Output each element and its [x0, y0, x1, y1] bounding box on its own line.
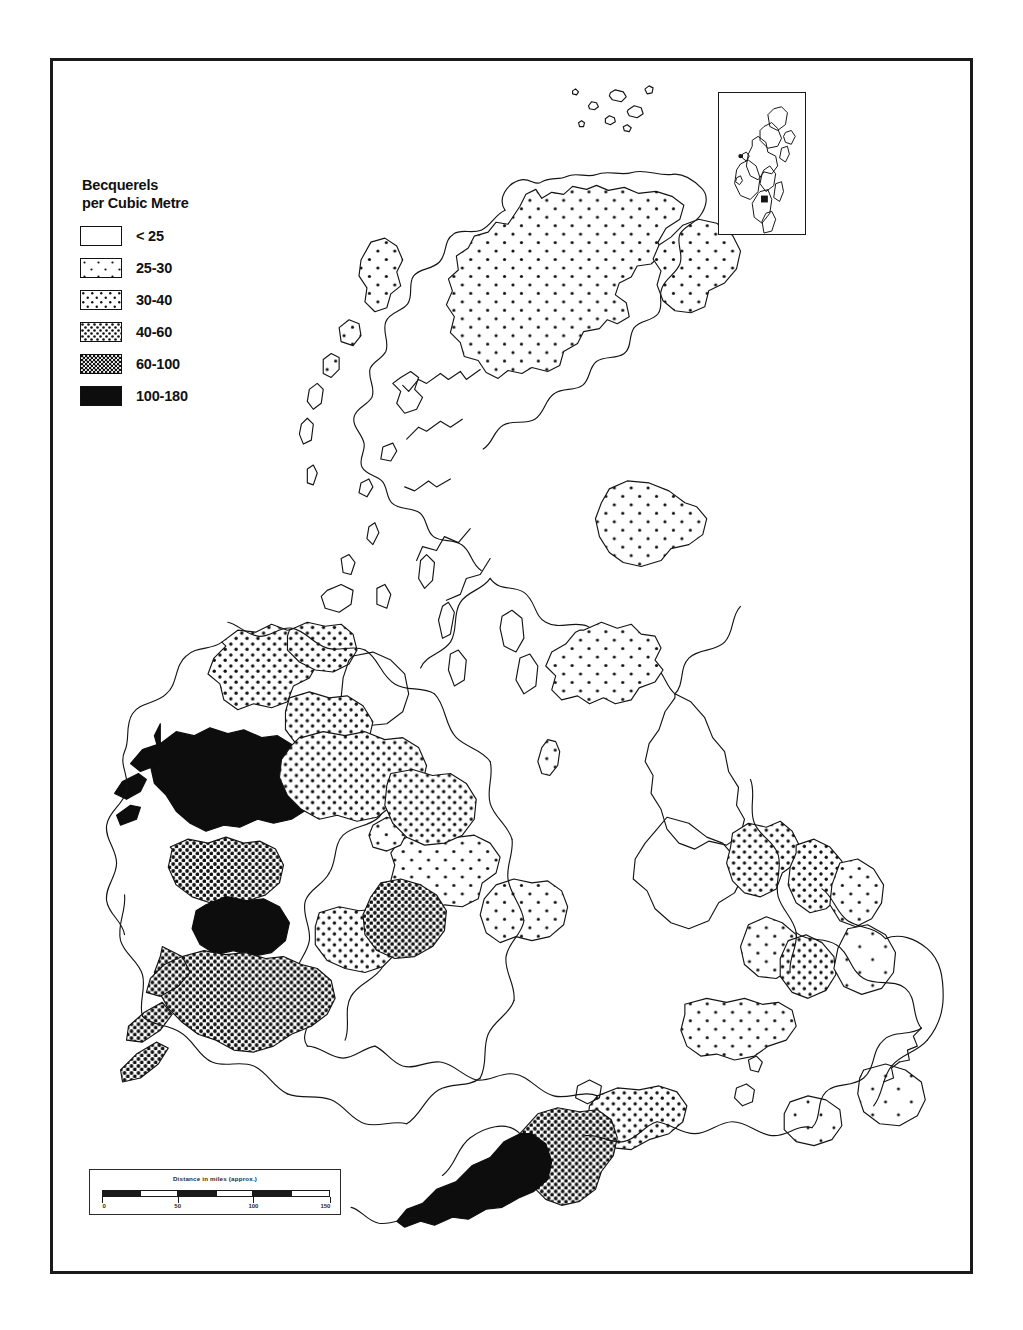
scale-tick-label-50: 50: [174, 1203, 181, 1209]
region-west-midlands: [780, 935, 836, 999]
legend-swatch-100-180: [80, 386, 122, 406]
legend-item: 60-100: [80, 349, 280, 379]
region-tayside-fife: [595, 481, 706, 567]
region-galway: [168, 837, 283, 903]
legend-item: < 25: [80, 221, 280, 251]
legend-label-40-60: 40-60: [136, 324, 172, 340]
legend-title: Becquerels per Cubic Metre: [82, 177, 280, 212]
scale-segment: [253, 1190, 291, 1197]
region-yorkshire: [633, 817, 742, 928]
region-gloucestershire-oxfordshire: [681, 998, 796, 1060]
legend-label-60-100: 60-100: [136, 356, 180, 372]
legend-swatch-25-30: [80, 258, 122, 278]
scale-bar-caption: Distance in miles (approx.): [90, 1175, 340, 1182]
scale-segment: [178, 1190, 216, 1197]
legend: Becquerels per Cubic Metre < 25 25-30 30…: [80, 177, 280, 413]
shetland-inset: [718, 92, 806, 235]
legend-label-30-40: 30-40: [136, 292, 172, 308]
legend-item: 100-180: [80, 381, 280, 411]
legend-swatch-40-60: [80, 322, 122, 342]
scale-bar-track: 0 50 100 150: [102, 1190, 330, 1197]
region-sussex: [784, 1096, 842, 1146]
map-frame: Becquerels per Cubic Metre < 25 25-30 30…: [50, 58, 973, 1274]
region-orkney: [573, 86, 653, 132]
legend-item: 25-30: [80, 253, 280, 283]
legend-item: 30-40: [80, 285, 280, 315]
scale-segment: [102, 1190, 140, 1197]
legend-label-100-180: 100-180: [136, 388, 188, 404]
legend-swatch-60-100: [80, 354, 122, 374]
scale-segment: [291, 1190, 330, 1197]
radon-map-figure: Becquerels per Cubic Metre < 25 25-30 30…: [0, 0, 1023, 1330]
legend-swatch-30-40: [80, 290, 122, 310]
legend-label-lt25: < 25: [136, 228, 164, 244]
scale-segment: [140, 1190, 178, 1197]
scale-tick-label-150: 150: [320, 1203, 330, 1209]
legend-swatch-lt25: [80, 226, 122, 246]
scale-tick-label-0: 0: [103, 1203, 106, 1209]
scale-tick-label-100: 100: [248, 1203, 258, 1209]
region-isle-of-man: [538, 740, 560, 776]
legend-label-25-30: 25-30: [136, 260, 172, 276]
region-cumbria: [546, 622, 663, 704]
legend-item: 40-60: [80, 317, 280, 347]
region-powys: [480, 879, 567, 943]
shetland-inset-geometry: [719, 93, 805, 234]
scale-bar: Distance in miles (approx.) 0 50 100 150: [89, 1169, 341, 1215]
region-nottinghamshire: [830, 859, 884, 927]
region-clare: [192, 897, 289, 957]
region-highland-scotland: [446, 185, 683, 378]
region-northamptonshire: [834, 925, 896, 995]
region-cornwall: [397, 1134, 552, 1228]
region-outer-hebrides: [299, 238, 402, 485]
scale-segment: [216, 1190, 254, 1197]
